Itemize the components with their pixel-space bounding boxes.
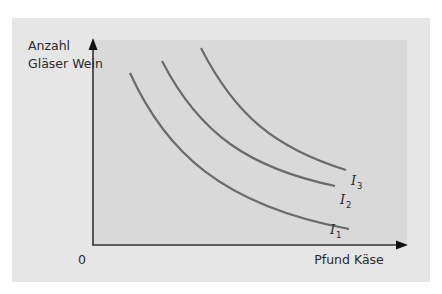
curve-label-i2-subscript: 2 — [346, 200, 351, 210]
plot-area — [93, 40, 407, 245]
curve-label-i3-subscript: 3 — [357, 181, 362, 191]
curve-label-i2-name: I — [339, 192, 346, 207]
indifference-curve-figure: Anzahl Gläser Wein Pfund Käse 0 I 1 I 2 … — [0, 0, 442, 294]
x-axis-label: Pfund Käse — [314, 252, 384, 267]
y-axis-label-line1: Anzahl — [28, 38, 70, 53]
origin-label: 0 — [78, 252, 86, 267]
curve-label-i1-subscript: 1 — [336, 230, 341, 240]
y-axis-label-line2: Gläser Wein — [28, 56, 103, 71]
diagram-canvas: Anzahl Gläser Wein Pfund Käse 0 I 1 I 2 … — [0, 0, 442, 294]
curve-label-i3-name: I — [350, 173, 357, 188]
curve-label-i1-name: I — [329, 222, 336, 237]
